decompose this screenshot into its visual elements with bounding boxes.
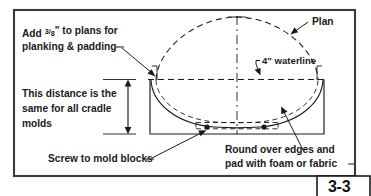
dimension-arrowhead-bottom: [125, 127, 132, 134]
page-badge-label: 3-3: [328, 178, 351, 195]
add-plans-suffix: " to plans for: [55, 25, 118, 36]
leader-waterline-hook: [256, 61, 260, 65]
arrowhead-screw: [198, 130, 206, 136]
annotation-round-over-line2: pad with foam or fabric: [225, 158, 337, 169]
figure-page: Add 3/8" to plans for planking & padding…: [0, 0, 371, 196]
annotation-waterline-label: 4" waterline: [262, 55, 316, 66]
annotation-add-plans-line1: Add 3/8" to plans for: [22, 25, 118, 39]
annotation-round-over-line1: Round over edges and: [225, 144, 335, 155]
screw-dot-left: [204, 124, 209, 129]
leader-screw: [152, 132, 203, 158]
add-plans-prefix: Add: [22, 28, 45, 39]
leader-add-plans: [122, 48, 152, 73]
annotation-distance-line2: same for all cradle: [22, 103, 112, 114]
annotation-plan-label: Plan: [312, 16, 334, 27]
arrowhead-plan: [291, 27, 299, 34]
arrowhead-waterline: [255, 68, 261, 75]
dimension-arrowhead-top: [125, 80, 132, 87]
annotation-screw-label: Screw to mold blocks: [48, 153, 153, 164]
screw-dot-right: [261, 124, 266, 129]
annotation-distance-line1: This distance is the: [22, 88, 117, 99]
cradle-mold-diagram: Add 3/8" to plans for planking & padding…: [0, 0, 371, 196]
annotation-distance-line3: molds: [22, 118, 52, 129]
annotation-add-plans-line2: planking & padding: [22, 41, 117, 52]
